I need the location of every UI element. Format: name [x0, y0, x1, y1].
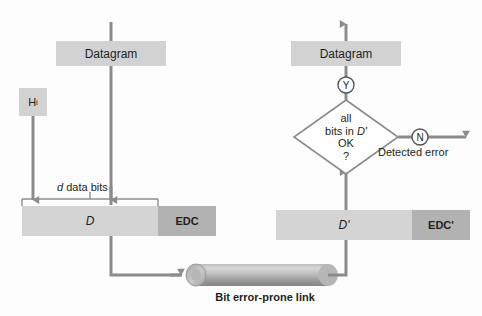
- sender-datagram-box: [56, 41, 166, 66]
- sender-to-link-path: [111, 236, 182, 275]
- bit-error-prone-link-cylinder: [186, 264, 338, 286]
- no-node-circle: [412, 129, 428, 145]
- sender-header-box: [19, 88, 47, 116]
- diagram-canvas: [0, 0, 482, 316]
- decision-diamond: [294, 100, 398, 174]
- receiver-edc-field-box: [412, 210, 470, 240]
- data-bits-bracket: [22, 192, 158, 206]
- sender-edc-field-box: [158, 206, 216, 236]
- yes-node-circle: [338, 77, 354, 93]
- error-detection-diagram: Datagram Hi D EDC d data bits Bit error-…: [0, 0, 482, 316]
- receiver-datagram-box: [291, 41, 401, 66]
- sender-d-field-box: [22, 206, 158, 236]
- receiver-d-field-box: [276, 210, 412, 240]
